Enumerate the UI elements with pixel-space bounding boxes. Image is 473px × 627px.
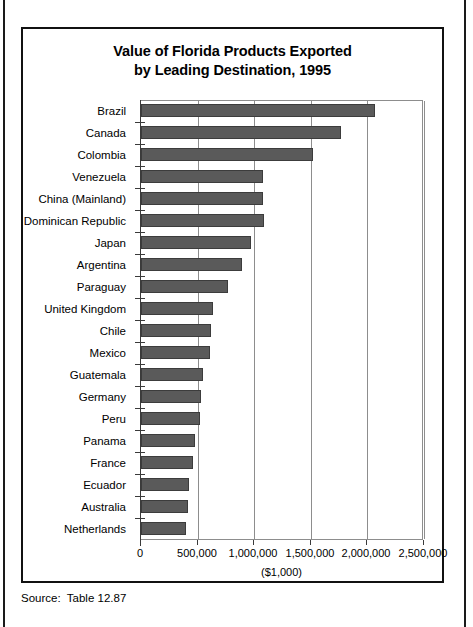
x-axis-tick-label: 1,500,000: [286, 547, 335, 559]
bar-row: Colombia: [0, 144, 423, 166]
bar-row: Japan: [0, 232, 423, 254]
bar-row: Netherlands: [0, 518, 423, 540]
bar-row: Canada: [0, 122, 423, 144]
bar: [141, 236, 251, 249]
bar: [141, 192, 263, 205]
bar-row: China (Mainland): [0, 188, 423, 210]
x-axis-tick-label: 2,000,000: [342, 547, 391, 559]
x-axis-tick: [140, 540, 141, 545]
chart-title: Value of Florida Products Exported by Le…: [21, 42, 444, 80]
bar: [141, 302, 213, 315]
category-label: Dominican Republic: [0, 210, 133, 232]
category-label: Chile: [0, 320, 133, 342]
bar: [141, 390, 201, 403]
category-label: Canada: [0, 122, 133, 144]
bar: [141, 104, 375, 117]
bar: [141, 478, 189, 491]
category-label: Mexico: [0, 342, 133, 364]
category-tick: [135, 210, 145, 211]
source-note: Source: Table 12.87: [21, 592, 126, 604]
bar-row: Germany: [0, 386, 423, 408]
category-tick: [135, 298, 145, 299]
category-tick: [135, 122, 145, 123]
bar: [141, 456, 193, 469]
category-tick: [135, 232, 145, 233]
category-label: Germany: [0, 386, 133, 408]
bar-row: Brazil: [0, 100, 423, 122]
category-tick: [135, 474, 145, 475]
category-tick: [135, 386, 145, 387]
bar: [141, 126, 341, 139]
bar-row: Ecuador: [0, 474, 423, 496]
bar-row: Venezuela: [0, 166, 423, 188]
category-tick: [135, 254, 145, 255]
bar: [141, 346, 210, 359]
bar: [141, 368, 203, 381]
bar-row: Chile: [0, 320, 423, 342]
bar-row: Australia: [0, 496, 423, 518]
bar: [141, 280, 228, 293]
bar-row: Argentina: [0, 254, 423, 276]
bar-row: France: [0, 452, 423, 474]
category-tick: [135, 320, 145, 321]
x-axis-tick: [310, 540, 311, 545]
bar-row: United Kingdom: [0, 298, 423, 320]
bar-row: Panama: [0, 430, 423, 452]
bar-rows: BrazilCanadaColombiaVenezuelaChina (Main…: [0, 100, 423, 540]
x-axis-tick-label: 0: [137, 547, 143, 559]
category-tick: [135, 188, 145, 189]
category-label: Japan: [0, 232, 133, 254]
category-tick: [135, 408, 145, 409]
bar: [141, 170, 263, 183]
bar: [141, 434, 195, 447]
x-axis-tick: [253, 540, 254, 545]
bar-row: Dominican Republic: [0, 210, 423, 232]
bar: [141, 500, 188, 513]
category-label: Netherlands: [0, 518, 133, 540]
x-axis-tick: [197, 540, 198, 545]
bar: [141, 412, 200, 425]
category-label: Venezuela: [0, 166, 133, 188]
category-label: Peru: [0, 408, 133, 430]
category-label: Argentina: [0, 254, 133, 276]
category-label: Colombia: [0, 144, 133, 166]
gridline: [424, 101, 425, 539]
bar: [141, 522, 186, 535]
category-tick: [135, 430, 145, 431]
bar-row: Mexico: [0, 342, 423, 364]
category-label: China (Mainland): [0, 188, 133, 210]
category-tick: [135, 342, 145, 343]
category-tick: [135, 452, 145, 453]
category-tick: [135, 518, 145, 519]
category-label: Australia: [0, 496, 133, 518]
category-label: Ecuador: [0, 474, 133, 496]
bar-row: Guatemala: [0, 364, 423, 386]
chart-title-line-1: Value of Florida Products Exported: [113, 43, 351, 59]
category-label: United Kingdom: [0, 298, 133, 320]
x-axis-tick: [366, 540, 367, 545]
x-axis-caption: ($1,000): [140, 566, 423, 578]
category-tick: [135, 496, 145, 497]
x-axis-tick-label: 1,000,000: [229, 547, 278, 559]
category-label: Panama: [0, 430, 133, 452]
x-axis-tick: [423, 540, 424, 545]
category-tick: [135, 144, 145, 145]
bar: [141, 258, 242, 271]
category-label: Guatemala: [0, 364, 133, 386]
page-border-right-rule: [464, 0, 466, 627]
category-label: France: [0, 452, 133, 474]
category-tick: [135, 276, 145, 277]
x-axis-tick-label: 500,000: [177, 547, 217, 559]
category-label: Paraguay: [0, 276, 133, 298]
category-label: Brazil: [0, 100, 133, 122]
category-tick: [135, 364, 145, 365]
x-axis-tick-label: 2,500,000: [399, 547, 448, 559]
bar: [141, 148, 313, 161]
category-tick: [135, 166, 145, 167]
bar: [141, 324, 211, 337]
page-canvas: Value of Florida Products Exported by Le…: [0, 0, 473, 627]
bar: [141, 214, 264, 227]
bar-row: Paraguay: [0, 276, 423, 298]
bar-row: Peru: [0, 408, 423, 430]
chart-title-line-2: by Leading Destination, 1995: [21, 61, 444, 80]
